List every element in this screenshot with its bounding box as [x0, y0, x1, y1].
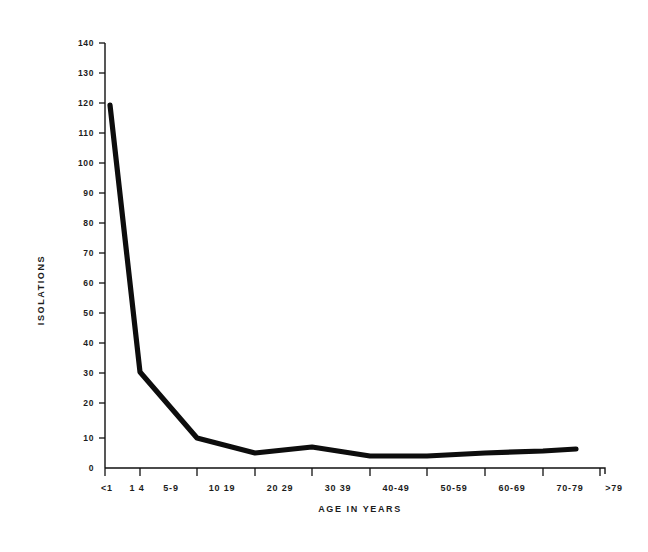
y-tick-label: 50: [83, 308, 94, 318]
x-tick-label: 10 19: [209, 483, 236, 493]
y-tick-label: 90: [83, 188, 94, 198]
y-tick-label: 20: [83, 398, 94, 408]
y-axis-ticks: [99, 43, 105, 438]
y-tick-label: 70: [83, 248, 94, 258]
x-axis-line: [105, 468, 605, 474]
y-tick-label: 110: [78, 128, 94, 138]
x-tick-label: >79: [605, 483, 623, 493]
x-tick-label: 50-59: [440, 483, 467, 493]
y-tick-label: 30: [83, 368, 94, 378]
y-axis-title: ISOLATIONS: [36, 255, 46, 325]
isolations-data-line: [110, 105, 576, 456]
y-tick-label: 100: [78, 158, 94, 168]
y-tick-label: 130: [78, 68, 94, 78]
y-tick-label: 120: [78, 98, 94, 108]
chart-figure: 140 130 120 110 100 90 80 70 60 50 40 30…: [0, 0, 648, 552]
x-axis-tick-labels: <1 1 4 5-9 10 19 20 29 30 39 40-49 50-59…: [101, 483, 623, 493]
y-tick-label: 0: [89, 463, 94, 473]
x-axis-title: AGE IN YEARS: [318, 504, 402, 514]
x-axis-ticks: [105, 468, 600, 476]
x-tick-label: <1: [101, 483, 113, 493]
y-tick-label: 60: [83, 278, 94, 288]
x-tick-label: 60-69: [498, 483, 525, 493]
x-tick-label: 5-9: [163, 483, 178, 493]
x-tick-label: 40-49: [382, 483, 409, 493]
x-tick-label: 30 39: [325, 483, 352, 493]
y-tick-label: 80: [83, 218, 94, 228]
y-tick-label: 40: [83, 338, 94, 348]
x-tick-label: 20 29: [267, 483, 294, 493]
isolations-by-age-line-chart: 140 130 120 110 100 90 80 70 60 50 40 30…: [0, 0, 648, 552]
x-tick-label: 1 4: [130, 483, 145, 493]
x-tick-label: 70-79: [556, 483, 583, 493]
y-axis-tick-labels: 140 130 120 110 100 90 80 70 60 50 40 30…: [78, 38, 94, 473]
y-tick-label: 10: [83, 433, 94, 443]
y-tick-label: 140: [78, 38, 94, 48]
